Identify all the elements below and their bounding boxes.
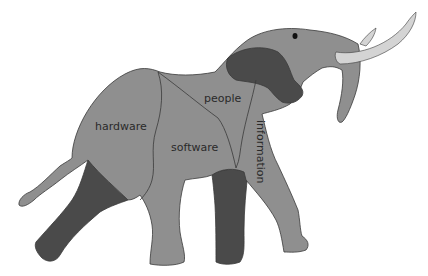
tusk	[335, 12, 416, 64]
label-people: people	[204, 92, 242, 105]
front-dark-leg	[212, 169, 248, 264]
eye	[293, 33, 298, 39]
label-software: software	[171, 141, 218, 154]
elephant-diagram: hardware software people information	[0, 0, 428, 276]
back-tusk	[360, 28, 376, 46]
label-hardware: hardware	[95, 120, 147, 133]
label-information: information	[254, 120, 267, 184]
